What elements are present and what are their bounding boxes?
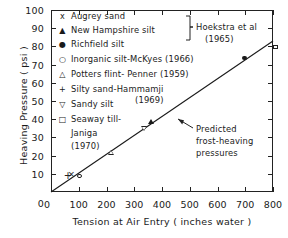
y-tick (51, 137, 56, 138)
y-axis-title: Heaving Pressure ( psi ) (18, 31, 29, 181)
legend-label: Sandy silt (71, 100, 114, 109)
legend-label: Potters flint- Penner (1959) (71, 70, 189, 79)
legend-label: Seaway till- (71, 115, 121, 124)
x-tick (218, 187, 219, 192)
y-tick-right (268, 119, 273, 120)
legend-janiga-line2: (1970) (71, 142, 100, 151)
y-tick-label: 0 (8, 198, 44, 209)
x-tick-label: 600 (208, 199, 227, 210)
x-tick-top (273, 10, 274, 15)
data-point-triangle-up-filled (148, 119, 154, 124)
y-tick (51, 174, 56, 175)
y-tick-right (268, 101, 273, 102)
legend-group-label-line2: (1965) (205, 34, 234, 44)
y-tick-right (268, 174, 273, 175)
x-tick-top (162, 10, 163, 15)
x-tick (134, 187, 135, 192)
legend-label: Silty sand-Hammamji (71, 85, 164, 94)
x-tick-label: 400 (153, 199, 172, 210)
x-tick-label: 100 (69, 199, 88, 210)
x-tick-top (134, 10, 135, 15)
marker-square-open-icon: □ (57, 115, 68, 124)
y-tick (51, 65, 56, 66)
x-tick (273, 187, 274, 192)
x-tick (107, 187, 108, 192)
y-tick-right (268, 28, 273, 29)
x-tick (190, 187, 191, 192)
x-tick-label: 300 (125, 199, 144, 210)
x-tick (79, 187, 80, 192)
legend-label: Augrey sand (71, 12, 125, 21)
x-tick (162, 187, 163, 192)
marker-triangle-up-open-icon: △ (57, 70, 68, 79)
marker-triangle-up-filled-icon: ▲ (57, 26, 68, 35)
data-point-circle-open (77, 174, 81, 178)
y-tick-right (268, 137, 273, 138)
annotation-line2: frost-heaving (196, 136, 253, 146)
chart-figure: 0100200300400500600700800010203040506070… (0, 0, 288, 238)
legend-group-label-line1: Hoekstra et al (196, 22, 257, 32)
x-tick-label: 500 (180, 199, 199, 210)
y-tick (51, 119, 56, 120)
x-axis-title: Tension at Air Entry ( inches water ) (51, 216, 273, 227)
annotation-line1: Predicted (196, 124, 237, 134)
y-tick (51, 10, 56, 11)
annotation-line3: pressures (196, 148, 238, 158)
data-point-circle-filled (242, 56, 247, 61)
x-tick-label: 0 (44, 199, 50, 210)
x-tick-top (218, 10, 219, 15)
y-tick-label: 100 (8, 5, 44, 16)
x-tick-top (245, 10, 246, 15)
data-point-triangle-up-open (108, 150, 114, 155)
legend-label: New Hampshire silt (71, 26, 155, 35)
data-point-triangle-down-open (141, 126, 147, 131)
marker-circle-open-icon: ○ (57, 55, 68, 64)
x-tick (245, 187, 246, 192)
y-tick-right (268, 156, 273, 157)
y-tick (51, 156, 56, 157)
x-tick-label: 700 (236, 199, 255, 210)
data-point-square-open (273, 45, 278, 50)
y-tick (51, 83, 56, 84)
marker-plus-icon: + (57, 85, 68, 94)
x-tick-top (190, 10, 191, 15)
y-tick-right (268, 10, 273, 11)
legend-hammamji-year: (1969) (135, 96, 164, 105)
y-tick-right (268, 83, 273, 84)
legend-janiga-line1: Janiga (71, 129, 98, 138)
y-tick-right (268, 65, 273, 66)
marker-triangle-down-open-icon: ▽ (57, 100, 68, 109)
y-tick (51, 46, 56, 47)
x-tick-label: 800 (264, 199, 283, 210)
y-tick (51, 101, 56, 102)
marker-x-icon: x (57, 12, 68, 21)
y-tick (51, 28, 56, 29)
legend-label: Inorganic silt-McKyes (1966) (71, 55, 194, 64)
marker-circle-filled-icon: ● (57, 40, 68, 49)
x-tick-label: 200 (97, 199, 116, 210)
legend-label: Richfield silt (71, 40, 124, 49)
